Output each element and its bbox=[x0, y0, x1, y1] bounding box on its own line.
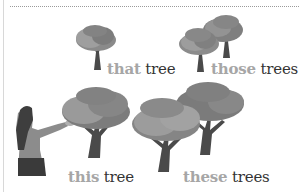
these-trees-icon bbox=[132, 82, 244, 172]
label-this-tree: this tree bbox=[68, 169, 134, 185]
determiner-those: those bbox=[211, 60, 256, 78]
label-these-trees: these trees bbox=[183, 169, 270, 185]
noun-tree: tree bbox=[104, 168, 134, 186]
noun-trees: trees bbox=[260, 60, 298, 78]
demonstratives-illustration bbox=[0, 0, 303, 192]
determiner-this: this bbox=[68, 168, 99, 186]
this-tree-icon bbox=[62, 87, 130, 158]
determiner-that: that bbox=[107, 60, 141, 78]
noun-tree: tree bbox=[145, 60, 175, 78]
label-those-trees: those trees bbox=[211, 61, 298, 77]
noun-trees: trees bbox=[232, 168, 270, 186]
label-that-tree: that tree bbox=[107, 61, 175, 77]
determiner-these: these bbox=[183, 168, 227, 186]
